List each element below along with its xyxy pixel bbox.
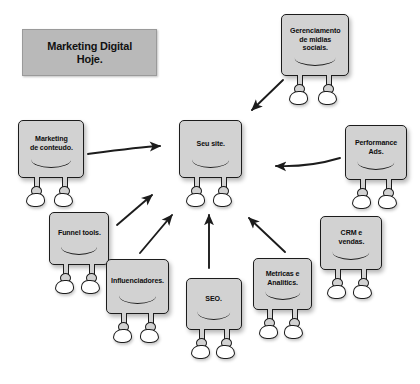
- node-label: Metricas e Analitics.: [263, 270, 303, 287]
- smile-icon: [119, 294, 157, 304]
- page-title: Marketing Digital Hoje.: [47, 40, 132, 66]
- node-label: CRM e vendas.: [335, 229, 367, 246]
- node-label: Gerenciamento de midias sociais.: [287, 27, 343, 53]
- node-label: Performance Ads.: [352, 139, 400, 156]
- node-label: Influenciadores.: [108, 277, 167, 286]
- smile-icon: [61, 245, 97, 255]
- title-line-2: Hoje.: [47, 53, 132, 66]
- smile-icon: [265, 290, 300, 300]
- smile-icon: [357, 160, 394, 170]
- node-label: Marketing de conteudo.: [27, 135, 76, 152]
- node-label: Funnel tools.: [55, 229, 104, 238]
- arrow-performance-ads-to-seu-site: [276, 158, 340, 166]
- arrow-metricas-to-seu-site: [249, 218, 285, 252]
- node-label: SEO.: [203, 295, 225, 304]
- smile-icon: [192, 158, 230, 168]
- arrow-influenciadores-to-seu-site: [140, 215, 172, 253]
- diagram-canvas: Marketing Digital Hoje. Gerenciamen: [0, 0, 420, 384]
- arrow-midias-sociais-to-seu-site: [252, 80, 283, 110]
- node-label: Seu site.: [193, 140, 227, 149]
- smile-icon: [31, 158, 71, 168]
- smile-icon: [332, 250, 369, 260]
- smile-icon: [295, 56, 336, 66]
- title-line-1: Marketing Digital: [47, 40, 132, 53]
- arrow-marketing-conteudo-to-seu-site: [88, 146, 160, 154]
- title-plaque: Marketing Digital Hoje.: [22, 29, 157, 76]
- smile-icon: [197, 310, 230, 320]
- arrow-funnel-tools-to-seu-site: [117, 195, 152, 225]
